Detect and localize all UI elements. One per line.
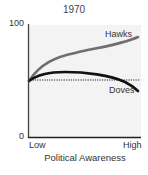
series-label-hawks: Hawks [105,29,132,39]
y-tick-0: 0 [19,131,24,141]
y-tick-100: 100 [9,18,24,28]
x-tick-high: High [123,140,142,150]
series-label-doves: Doves [109,85,135,95]
x-axis-label: Political Awareness [28,152,142,163]
x-tick-low: Low [29,140,46,150]
